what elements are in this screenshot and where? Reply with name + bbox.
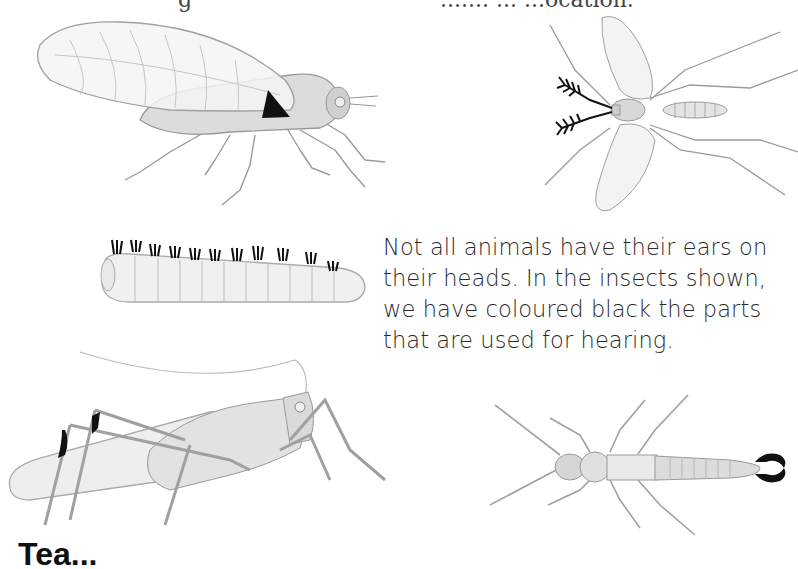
mosquito-hearing-antennae xyxy=(556,77,612,135)
caption-line: that are used for hearing. xyxy=(383,325,793,356)
caption-line: their heads. In the insects shown, xyxy=(383,263,793,294)
cut-off-bottom-heading: Tea... xyxy=(18,536,97,569)
caption-line: we have coloured black the parts xyxy=(383,294,793,325)
earwig-illustration xyxy=(470,380,798,540)
mosquito-illustration xyxy=(520,10,798,220)
cicada-illustration xyxy=(0,0,400,215)
caption-line: Not all animals have their ears on xyxy=(383,232,793,263)
cricket-illustration xyxy=(0,340,410,530)
caption-text: Not all animals have their ears on their… xyxy=(383,232,793,356)
caterpillar-illustration xyxy=(90,230,380,310)
